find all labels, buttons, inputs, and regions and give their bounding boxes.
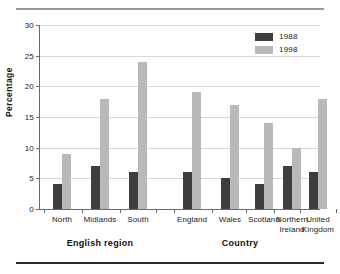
- chart-legend: 19881998: [255, 30, 298, 56]
- legend-swatch-1988: [255, 33, 273, 41]
- y-tick-mark: [36, 148, 40, 149]
- bar-scotland-1988: [255, 184, 264, 209]
- x-category-label: United Kingdom: [294, 215, 340, 235]
- legend-item-1998: 1998: [255, 43, 298, 56]
- legend-item-1988: 1988: [255, 30, 298, 43]
- bar-scotland-1998: [264, 123, 273, 209]
- bar-wales-1988: [221, 178, 230, 209]
- bar-united-kingdom-1988: [309, 172, 318, 209]
- x-tick-mark: [156, 209, 157, 213]
- y-tick-mark: [36, 209, 40, 210]
- legend-label-1988: 1988: [279, 32, 298, 41]
- y-tick-label: 25: [25, 51, 34, 60]
- bar-south-1998: [138, 62, 147, 209]
- y-tick-mark: [36, 25, 40, 26]
- bar-north-1988: [53, 184, 62, 209]
- bar-chart-figure: Percentage 051015202530 NorthMidlandsSou…: [0, 0, 340, 274]
- bar-midlands-1988: [91, 166, 100, 209]
- y-tick-mark: [36, 178, 40, 179]
- gridline: 10: [40, 148, 320, 149]
- x-tick-mark: [44, 209, 45, 213]
- x-tick-mark: [300, 209, 301, 213]
- x-tick-mark: [246, 209, 247, 213]
- x-tick-mark: [274, 209, 275, 213]
- x-tick-mark: [212, 209, 213, 213]
- y-tick-mark: [36, 117, 40, 118]
- gridline: 5: [40, 178, 320, 179]
- y-tick-mark: [36, 56, 40, 57]
- bar-england-1998: [192, 92, 201, 209]
- y-tick-label: 5: [29, 174, 34, 183]
- y-tick-label: 20: [25, 82, 34, 91]
- gridline: 20: [40, 86, 320, 87]
- top-divider: [16, 8, 324, 10]
- bar-north-1998: [62, 154, 71, 209]
- y-tick-label: 30: [25, 21, 34, 30]
- x-tick-mark: [120, 209, 121, 213]
- x-tick-mark: [82, 209, 83, 213]
- y-tick-label: 15: [25, 113, 34, 122]
- gridline: 30: [40, 25, 320, 26]
- bar-wales-1998: [230, 105, 239, 209]
- group-title-country: Country: [210, 238, 270, 248]
- bar-south-1988: [129, 172, 138, 209]
- bar-northern-ireland-1998: [292, 148, 301, 209]
- bar-england-1988: [183, 172, 192, 209]
- gridline: 15: [40, 117, 320, 118]
- bottom-divider: [16, 262, 324, 264]
- bar-northern-ireland-1988: [283, 166, 292, 209]
- y-axis-title: Percentage: [4, 67, 14, 117]
- x-tick-mark: [174, 209, 175, 213]
- x-tick-mark: [336, 209, 337, 213]
- x-category-label: South: [114, 215, 162, 225]
- group-title-english-region: English region: [50, 238, 150, 248]
- y-tick-label: 0: [29, 205, 34, 214]
- bar-midlands-1998: [100, 99, 109, 209]
- legend-label-1998: 1998: [279, 45, 298, 54]
- y-tick-mark: [36, 86, 40, 87]
- legend-swatch-1998: [255, 46, 273, 54]
- bar-united-kingdom-1998: [318, 99, 327, 209]
- y-tick-label: 10: [25, 143, 34, 152]
